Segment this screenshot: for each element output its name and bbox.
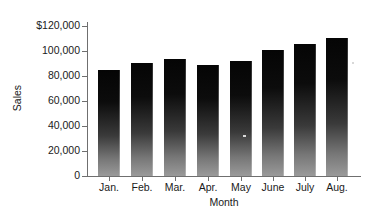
bar-edge-highlight	[315, 44, 317, 176]
bar-edge-highlight	[251, 61, 253, 176]
bar-edge-highlight	[347, 38, 349, 176]
y-tick-label: 0	[4, 170, 80, 181]
y-tick-mark	[82, 176, 88, 177]
bar-chart-figure: $120,000 100,000 80,000 60,000 40,000 20…	[0, 0, 373, 216]
y-tick-label: 20,000	[4, 145, 80, 156]
y-tick-label: 100,000	[4, 45, 80, 56]
scan-artifact	[243, 135, 246, 137]
bar-june	[262, 50, 284, 176]
y-tick-mark	[82, 76, 88, 77]
x-axis-line	[87, 176, 361, 177]
bar-feb	[131, 63, 153, 176]
y-axis-line	[87, 22, 88, 176]
bar-edge-highlight	[152, 63, 154, 176]
bar-edge-highlight	[185, 59, 187, 176]
bar-apr	[197, 65, 219, 176]
bar-edge-highlight	[283, 50, 285, 176]
x-tick-label-aug: Aug.	[317, 181, 357, 193]
y-tick-mark	[82, 126, 88, 127]
bar-may	[230, 61, 252, 176]
plot-area: $120,000 100,000 80,000 60,000 40,000 20…	[0, 0, 373, 216]
bar-edge-highlight	[119, 70, 121, 176]
bar-jan	[98, 70, 120, 176]
bar-edge-highlight	[218, 65, 220, 176]
bar-mar	[164, 59, 186, 176]
bar-july	[294, 44, 316, 176]
y-tick-mark	[82, 26, 88, 27]
x-axis-title: Month	[87, 196, 361, 208]
scan-artifact	[352, 62, 354, 64]
y-axis-title: Sales	[11, 68, 23, 128]
y-tick-mark	[82, 51, 88, 52]
y-tick-mark	[82, 151, 88, 152]
y-tick-label: $120,000	[4, 20, 80, 31]
bar-aug	[326, 38, 348, 176]
y-tick-mark	[82, 101, 88, 102]
